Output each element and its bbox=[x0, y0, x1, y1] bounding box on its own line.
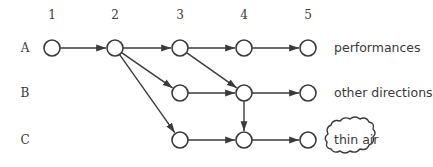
node-a4 bbox=[236, 40, 252, 56]
node-a3 bbox=[172, 40, 188, 56]
edge-a2-c3 bbox=[120, 55, 175, 133]
edge-a2-b3 bbox=[122, 53, 173, 88]
thin-air-cloud-icon: thin air bbox=[325, 117, 379, 153]
row-label-a: A bbox=[20, 41, 30, 55]
column-label-5: 5 bbox=[304, 8, 312, 22]
node-c5 bbox=[300, 132, 316, 148]
flow-diagram: 1 2 3 4 5 A B C performances other direc… bbox=[0, 0, 433, 167]
column-label-4: 4 bbox=[240, 8, 248, 22]
node-b4 bbox=[236, 85, 252, 101]
node-a5 bbox=[300, 40, 316, 56]
node-c4 bbox=[236, 132, 252, 148]
edge-a3-b4 bbox=[187, 53, 237, 88]
node-a2 bbox=[107, 40, 123, 56]
row-label-b: B bbox=[21, 86, 30, 100]
outcome-other-directions: other directions bbox=[334, 85, 433, 100]
nodes bbox=[44, 40, 316, 148]
outcome-performances: performances bbox=[334, 40, 421, 55]
node-b3 bbox=[172, 85, 188, 101]
column-label-2: 2 bbox=[111, 8, 119, 22]
column-label-3: 3 bbox=[176, 8, 184, 22]
row-label-c: C bbox=[20, 133, 29, 147]
column-headers: 1 2 3 4 5 bbox=[48, 8, 312, 22]
outcomes: performances other directions thin air bbox=[325, 40, 432, 153]
row-headers: A B C bbox=[20, 41, 30, 147]
node-b5 bbox=[300, 85, 316, 101]
node-a1 bbox=[44, 40, 60, 56]
node-c3 bbox=[172, 132, 188, 148]
column-label-1: 1 bbox=[48, 8, 56, 22]
outcome-thin-air: thin air bbox=[334, 132, 379, 147]
